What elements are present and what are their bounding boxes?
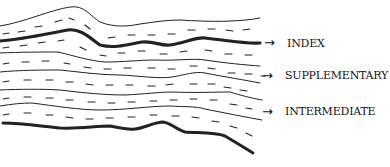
- bed-boundary-4: [0, 70, 260, 83]
- basal-bed: [3, 122, 253, 153]
- bed-boundary-3: [0, 52, 260, 66]
- strata-diagram: [0, 0, 390, 167]
- arrow-icon: →: [262, 106, 273, 118]
- label-intermediate: INTERMEDIATE: [285, 106, 375, 118]
- bed-boundary-5: [0, 89, 262, 100]
- bed-boundary-1: [0, 7, 260, 26]
- arrow-icon: →: [262, 70, 273, 82]
- index-bed: [0, 30, 260, 47]
- label-index: INDEX: [287, 38, 325, 50]
- arrow-icon: →: [264, 37, 275, 49]
- label-supplementary: SUPPLEMENTARY: [285, 70, 388, 82]
